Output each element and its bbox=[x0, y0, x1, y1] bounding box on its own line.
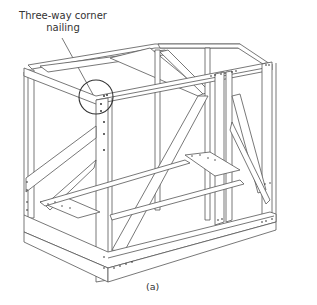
left-back-post bbox=[28, 70, 34, 218]
figure-caption: (a) bbox=[146, 281, 159, 292]
crate-frame-drawing bbox=[0, 0, 317, 305]
middle-post bbox=[215, 72, 224, 225]
left-side-diagonal bbox=[26, 126, 96, 192]
